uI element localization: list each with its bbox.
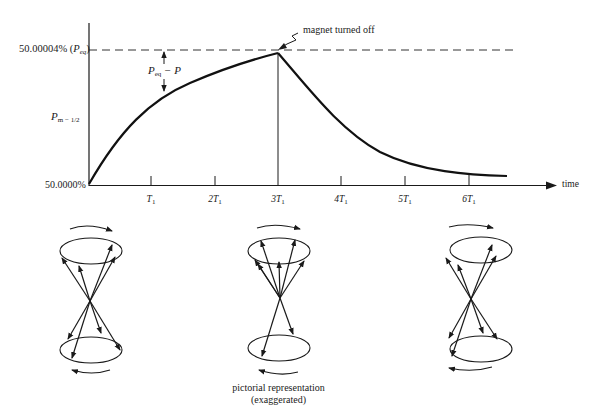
precession-arrow-bottom-icon	[449, 367, 492, 370]
y-label-p-half: Pm − 1/2	[51, 111, 80, 124]
precession-arrow-bottom-icon	[72, 370, 110, 373]
decay-curve	[278, 53, 507, 176]
y-label-peq: 50.00004% (Peq)	[19, 44, 90, 56]
precession-arrow-top-icon	[257, 225, 300, 229]
caption-line-1: pictorial representation	[0, 382, 581, 394]
tick-label-2t1: 2T1	[208, 194, 222, 206]
gap-label: Peq − P	[148, 65, 181, 78]
polarization-diagram	[0, 0, 605, 414]
tick-label-6t1: 6T1	[462, 194, 476, 206]
magnet-off-arrowhead-icon	[278, 43, 287, 50]
rise-curve	[89, 53, 278, 184]
tick-label-4t1: 4T1	[334, 194, 348, 206]
spin-cone-left	[60, 226, 122, 373]
tick-label-t1: T1	[147, 194, 156, 206]
caption-line-2: (exaggerated)	[0, 394, 581, 406]
spin-cone-middle	[248, 225, 310, 374]
x-ticks	[151, 175, 469, 185]
magnet-off-label: magnet turned off	[303, 25, 374, 35]
y-label-zero: 50.0000%	[45, 180, 86, 190]
precession-arrow-top-icon	[70, 226, 112, 231]
tick-label-5t1: 5T1	[398, 194, 412, 206]
precession-arrow-top-icon	[449, 225, 493, 228]
caption: pictorial representation (exaggerated)	[0, 382, 581, 406]
precession-arrow-bottom-icon	[259, 370, 298, 374]
x-axis-arrow-icon	[546, 182, 557, 190]
tick-label-3t1: 3T1	[271, 194, 285, 206]
x-axis-label: time	[562, 180, 579, 190]
spin-cone-right	[446, 225, 512, 371]
